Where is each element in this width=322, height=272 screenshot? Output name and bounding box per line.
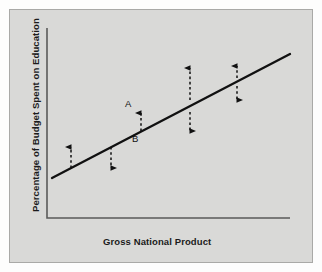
figure-container: Percentage of Budget Spent on Education … — [0, 0, 322, 272]
y-axis-label: Percentage of Budget Spent on Education — [30, 18, 41, 212]
annotation-label-b: B — [132, 133, 138, 144]
x-axis-label: Gross National Product — [103, 236, 211, 247]
annotation-label-a: A — [125, 98, 131, 109]
chart-panel — [9, 9, 313, 263]
